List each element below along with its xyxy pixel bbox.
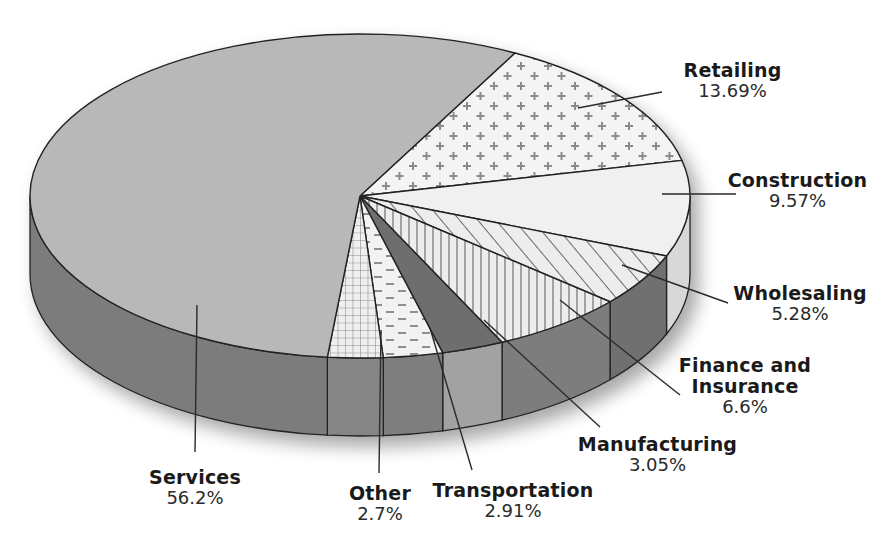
label-name: Manufacturing (570, 434, 745, 455)
label-value: 9.57% (720, 191, 875, 211)
label-manufacturing: Manufacturing 3.05% (570, 434, 745, 475)
label-services: Services 56.2% (145, 467, 245, 508)
label-name-line1: Finance and (670, 355, 820, 376)
label-construction: Construction 9.57% (720, 170, 875, 211)
label-transportation: Transportation 2.91% (428, 480, 598, 521)
label-finance-insurance: Finance and Insurance 6.6% (670, 355, 820, 417)
label-retailing: Retailing 13.69% (660, 60, 805, 101)
pie-top (30, 34, 690, 358)
pie-side-other (327, 357, 383, 436)
label-value: 2.91% (428, 501, 598, 521)
label-wholesaling: Wholesaling 5.28% (725, 283, 875, 324)
pie-3d (30, 34, 690, 436)
label-value: 13.69% (660, 81, 805, 101)
label-name: Wholesaling (725, 283, 875, 304)
label-name: Retailing (660, 60, 805, 81)
label-value: 2.7% (340, 504, 420, 524)
label-value: 6.6% (670, 397, 820, 417)
label-name: Transportation (428, 480, 598, 501)
pie-side-transportation (383, 353, 442, 436)
label-name-line2: Insurance (670, 376, 820, 397)
label-name: Construction (720, 170, 875, 191)
label-other: Other 2.7% (340, 483, 420, 524)
pie-side-manufacturing (443, 342, 502, 431)
label-value: 56.2% (145, 488, 245, 508)
label-name: Other (340, 483, 420, 504)
label-value: 3.05% (570, 455, 745, 475)
label-value: 5.28% (725, 304, 875, 324)
label-name: Services (145, 467, 245, 488)
